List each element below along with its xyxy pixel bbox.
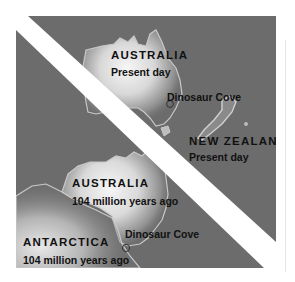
page-edge-rule (285, 40, 286, 272)
dinosaur-cove-ancient-label: Dinosaur Cove (125, 229, 199, 240)
antarctica-subtitle: 104 million years ago (23, 255, 129, 266)
new-zealand-title: NEW ZEALAND (189, 136, 276, 148)
dinosaur-cove-present-label: Dinosaur Cove (167, 92, 241, 103)
antarctica-title: ANTARCTICA (23, 237, 110, 249)
australia-present-title: AUSTRALIA (111, 50, 188, 62)
new-zealand-subtitle: Present day (189, 152, 249, 163)
australia-ancient-title: AUSTRALIA (72, 178, 149, 190)
australia-present-subtitle: Present day (111, 67, 171, 78)
australia-ancient-subtitle: 104 million years ago (72, 196, 178, 207)
map-panel: AUSTRALIA Present day Dinosaur Cove NEW … (16, 16, 276, 268)
